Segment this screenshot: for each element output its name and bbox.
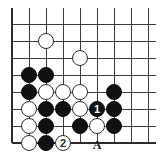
black-stone-b5[interactable] [21, 67, 37, 83]
black-stone-c3[interactable] [38, 101, 54, 117]
board-vertical-line-8 [148, 8, 149, 143]
go-board[interactable]: 12A [0, 0, 165, 150]
white-stone-d4[interactable] [55, 84, 71, 100]
white-stone-c7[interactable] [38, 33, 54, 49]
white-stone-b3[interactable] [21, 101, 37, 117]
black-stone-b4[interactable] [21, 84, 37, 100]
white-stone-c4[interactable] [38, 84, 54, 100]
black-stone-c1[interactable] [38, 135, 54, 151]
board-vertical-line-0 [11, 8, 13, 143]
go-diagram-figure: 12A [0, 0, 165, 164]
board-horizontal-line-1 [12, 41, 156, 42]
board-vertical-line-3 [63, 8, 64, 143]
black-stone-c2[interactable] [38, 118, 54, 134]
white-stone-e6[interactable] [72, 50, 88, 66]
white-stone-b2[interactable] [21, 118, 37, 134]
board-horizontal-line-0 [12, 24, 156, 25]
black-stone-g3[interactable] [106, 101, 122, 117]
white-stone-f2[interactable] [89, 118, 105, 134]
black-stone-c5[interactable] [38, 67, 54, 83]
black-stone-d3[interactable] [55, 101, 71, 117]
black-stone-move-1[interactable]: 1 [89, 101, 105, 117]
white-stone-e4[interactable] [72, 84, 88, 100]
black-stone-e2[interactable] [72, 118, 88, 134]
point-label-a: A [90, 139, 104, 151]
stone-move-number: 2 [60, 138, 66, 149]
white-stone-move-2[interactable]: 2 [55, 135, 71, 151]
black-stone-g2[interactable] [106, 118, 122, 134]
board-vertical-line-7 [131, 8, 132, 143]
stone-move-number: 1 [94, 104, 100, 115]
white-stone-b1[interactable] [21, 135, 37, 151]
white-stone-e3[interactable] [72, 101, 88, 117]
black-stone-g4[interactable] [106, 84, 122, 100]
